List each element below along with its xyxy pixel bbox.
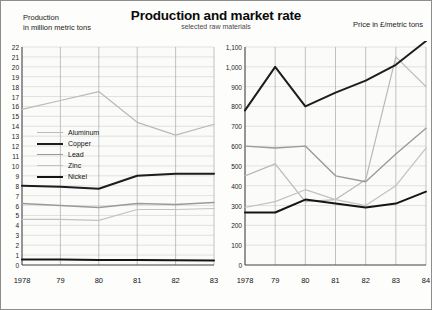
y-tick-label: 500	[219, 162, 242, 169]
x-tick-label: 81	[331, 276, 339, 285]
y-tick-label: 17	[5, 93, 19, 100]
market-rate-chart-panel: 01002003004005006007008009001,0001,10019…	[219, 41, 429, 287]
x-tick-label: 80	[95, 276, 103, 285]
y-tick-label: 8	[5, 182, 19, 189]
y-tick-label: 2	[5, 242, 19, 249]
y-tick-label: 14	[5, 123, 19, 130]
legend-item-zinc: Zinc	[37, 160, 99, 171]
legend-swatch-copper	[37, 143, 63, 145]
chart-figure: Production in million metric tons Produc…	[0, 0, 432, 310]
y-tick-label: 16	[5, 103, 19, 110]
legend-item-aluminum: Aluminum	[37, 127, 99, 138]
x-tick-label: 82	[171, 276, 179, 285]
legend-label: Nickel	[68, 173, 87, 180]
y-tick-label: 4	[5, 222, 19, 229]
y-tick-label: 19	[5, 73, 19, 80]
y-tick-label: 100	[219, 242, 242, 249]
x-tick-label: 1978	[14, 276, 31, 285]
y-tick-label: 600	[219, 143, 242, 150]
y-tick-label: 9	[5, 172, 19, 179]
y-tick-label: 20	[5, 63, 19, 70]
legend-label: Aluminum	[68, 129, 99, 136]
y-tick-label: 700	[219, 123, 242, 130]
market-rate-plot-area: 01002003004005006007008009001,0001,10019…	[219, 41, 429, 287]
x-tick-label: 83	[392, 276, 400, 285]
y-tick-label: 18	[5, 83, 19, 90]
y-tick-label: 7	[5, 192, 19, 199]
y-tick-label: 3	[5, 232, 19, 239]
legend-item-lead: Lead	[37, 149, 99, 160]
right-axis-title: Price in £/metric tons	[353, 20, 423, 29]
y-tick-label: 400	[219, 182, 242, 189]
y-tick-label: 21	[5, 53, 19, 60]
legend-swatch-nickel	[37, 176, 63, 178]
x-tick-label: 82	[361, 276, 369, 285]
legend-label: Copper	[68, 140, 91, 147]
legend-item-nickel: Nickel	[37, 171, 99, 182]
y-tick-label: 1	[5, 252, 19, 259]
y-tick-label: 13	[5, 133, 19, 140]
y-tick-label: 200	[219, 222, 242, 229]
x-tick-label: 81	[133, 276, 141, 285]
y-tick-label: 15	[5, 113, 19, 120]
y-tick-label: 10	[5, 162, 19, 169]
y-tick-label: 6	[5, 202, 19, 209]
series-line-nickel	[22, 260, 214, 261]
x-tick-label: 79	[56, 276, 64, 285]
y-tick-label: 5	[5, 212, 19, 219]
legend-swatch-zinc	[37, 165, 63, 166]
y-tick-label: 0	[5, 262, 19, 269]
x-tick-label: 80	[301, 276, 309, 285]
legend-swatch-aluminum	[37, 132, 63, 133]
y-tick-label: 1,100	[219, 44, 242, 51]
y-tick-label: 800	[219, 103, 242, 110]
x-tick-label: 1978	[237, 276, 254, 285]
y-tick-label: 1,000	[219, 63, 242, 70]
chart-legend: AluminumCopperLeadZincNickel	[37, 127, 99, 182]
legend-label: Zinc	[68, 162, 81, 169]
market-rate-svg	[219, 41, 429, 287]
y-tick-label: 0	[219, 262, 242, 269]
y-tick-label: 11	[5, 153, 19, 160]
y-tick-label: 900	[219, 83, 242, 90]
y-tick-label: 12	[5, 143, 19, 150]
x-tick-label: 79	[271, 276, 279, 285]
x-tick-label: 83	[210, 276, 218, 285]
y-tick-label: 300	[219, 202, 242, 209]
legend-swatch-lead	[37, 154, 63, 155]
x-tick-label: 84	[422, 276, 430, 285]
y-tick-label: 22	[5, 44, 19, 51]
legend-label: Lead	[68, 151, 84, 158]
legend-item-copper: Copper	[37, 138, 99, 149]
